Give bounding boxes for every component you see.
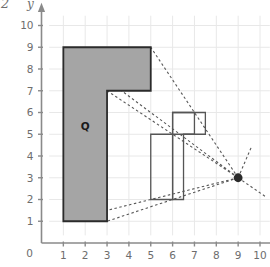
x-tick-label: 6: [169, 249, 176, 261]
x-tick-label: 2: [82, 249, 89, 261]
x-tick-label: 10: [253, 249, 266, 261]
x-tick-label: 7: [191, 249, 198, 261]
shape-label-Q: Q: [81, 120, 90, 132]
y-axis-arrow: [38, 3, 45, 12]
x-tick-label: 5: [147, 249, 154, 261]
y-tick-label: 8: [27, 63, 34, 75]
x-tick-label: 9: [235, 249, 242, 261]
x-tick-label: 3: [104, 249, 111, 261]
y-tick-label: 7: [27, 85, 34, 97]
y-tick-label: 5: [27, 128, 34, 140]
y-tick-label: 1: [27, 215, 34, 227]
y-tick-label: 3: [27, 172, 34, 184]
origin-label: 0: [26, 247, 33, 259]
y-tick-label: 4: [27, 150, 34, 162]
center-point-dot: [234, 173, 243, 182]
enlargement-diagram: 2 01234567891012345678910 Q yx: [0, 0, 270, 267]
y-tick-label: 2: [27, 193, 34, 205]
ray-line: [238, 178, 266, 198]
y-tick-label: 9: [27, 41, 34, 53]
y-tick-label: 10: [20, 19, 33, 31]
y-axis-label: y: [26, 0, 34, 11]
y-tick-label: 6: [27, 106, 34, 118]
x-tick-label: 1: [60, 249, 67, 261]
x-tick-label: 8: [213, 249, 220, 261]
coordinate-plot: 01234567891012345678910 Q yx: [0, 0, 270, 267]
center-of-enlargement: [234, 173, 243, 182]
x-tick-label: 4: [126, 249, 133, 261]
ray-line: [238, 147, 251, 177]
